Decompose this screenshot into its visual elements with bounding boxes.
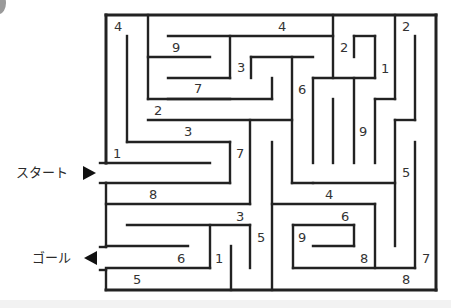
maze-number: 1: [381, 62, 389, 75]
maze-number: 9: [172, 41, 180, 54]
maze-number: 4: [114, 20, 122, 33]
maze-number: 1: [215, 252, 223, 265]
maze-puzzle: スタート ゴール 449223176239175843659618758: [0, 0, 451, 308]
maze-number: 6: [177, 252, 185, 265]
maze-number: 9: [298, 231, 306, 244]
maze-number: 2: [340, 41, 348, 54]
maze-number: 3: [236, 210, 244, 223]
maze-number: 9: [359, 125, 367, 138]
maze-number: 2: [154, 104, 162, 117]
maze-number: 5: [257, 231, 265, 244]
maze-number: 8: [402, 273, 410, 286]
maze-number: 4: [278, 20, 286, 33]
start-arrow-icon: [83, 166, 96, 180]
maze-number: 3: [184, 125, 192, 138]
maze-number: 8: [360, 252, 368, 265]
maze-number: 5: [402, 166, 410, 179]
maze-number: 6: [298, 83, 306, 96]
maze-number: 7: [236, 147, 244, 160]
maze-number: 7: [422, 252, 430, 265]
goal-arrow-icon: [84, 251, 97, 265]
maze-number: 3: [237, 61, 245, 74]
start-label: スタート: [16, 166, 68, 179]
maze-number: 5: [133, 273, 141, 286]
maze-number: 7: [194, 82, 202, 95]
maze-number: 6: [341, 210, 349, 223]
bottom-edge: [0, 300, 451, 308]
goal-label: ゴール: [32, 251, 71, 264]
maze-number: 8: [149, 188, 157, 201]
maze-number: 1: [113, 147, 121, 160]
maze-number: 4: [325, 188, 333, 201]
maze-number: 2: [402, 20, 410, 33]
